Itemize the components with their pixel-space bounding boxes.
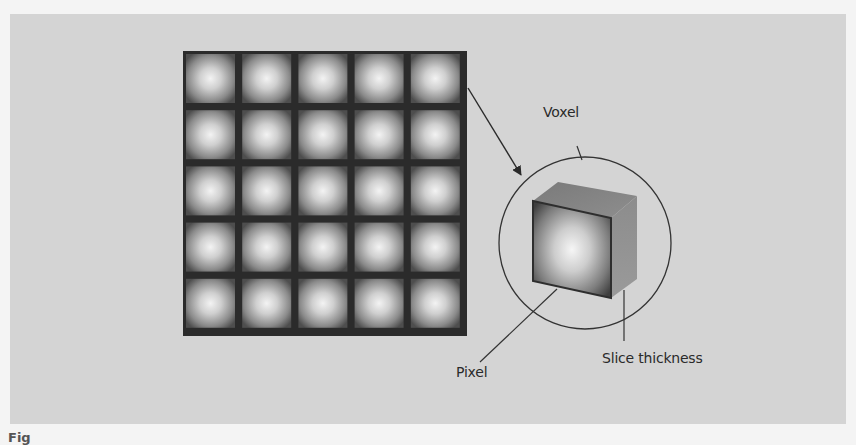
pixel-cell bbox=[355, 110, 404, 159]
pixel-cell bbox=[242, 279, 291, 328]
pixel-cell bbox=[298, 54, 347, 103]
pixel-cell bbox=[186, 54, 235, 103]
pixel-cell bbox=[242, 54, 291, 103]
slice-thickness-label: Slice thickness bbox=[602, 350, 703, 366]
pixel-cell bbox=[411, 54, 460, 103]
pixel-cell bbox=[298, 166, 347, 215]
pixel-cell bbox=[411, 166, 460, 215]
pixel-cell bbox=[355, 54, 404, 103]
pixel-cell bbox=[355, 279, 404, 328]
pixel-cell bbox=[186, 110, 235, 159]
voxel-label: Voxel bbox=[543, 104, 579, 120]
pixel-cell bbox=[355, 223, 404, 272]
figure-caption-fragment: Fig bbox=[8, 430, 31, 445]
pixel-leader-line bbox=[480, 289, 557, 362]
zoom-arrow bbox=[468, 88, 521, 175]
pixel-grid bbox=[183, 51, 467, 336]
pixel-cell bbox=[411, 279, 460, 328]
pixel-label: Pixel bbox=[456, 364, 487, 380]
pixel-cell bbox=[186, 166, 235, 215]
pixel-cell bbox=[355, 166, 404, 215]
pixel-cell bbox=[411, 223, 460, 272]
pixel-cell bbox=[411, 110, 460, 159]
pixel-cell bbox=[298, 110, 347, 159]
pixel-cell bbox=[298, 279, 347, 328]
pixel-cell bbox=[186, 279, 235, 328]
pixel-cell bbox=[242, 110, 291, 159]
pixel-cell bbox=[242, 166, 291, 215]
pixel-cell bbox=[298, 223, 347, 272]
pixel-cell bbox=[186, 223, 235, 272]
voxel-cube bbox=[533, 182, 637, 298]
pixel-cell bbox=[242, 223, 291, 272]
